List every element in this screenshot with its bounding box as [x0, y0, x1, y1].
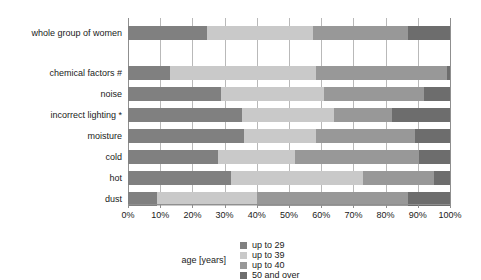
- bar-segment: [128, 150, 218, 164]
- bar-segment: [221, 87, 324, 101]
- bar-segment: [128, 87, 221, 101]
- legend-item[interactable]: up to 29: [240, 240, 286, 250]
- y-axis-category-labels: whole group of womenchemical factors #no…: [0, 18, 122, 204]
- legend-swatch-icon: [240, 262, 247, 269]
- gridline-100: [450, 18, 451, 204]
- bar-segment: [207, 26, 313, 40]
- category-label: noise: [0, 87, 122, 101]
- x-tick-label: 100%: [430, 209, 470, 221]
- bar-segment: [128, 26, 207, 40]
- bar-row: [128, 108, 450, 122]
- bar-row: [128, 150, 450, 164]
- category-label: whole group of women: [0, 26, 122, 40]
- legend-swatch-icon: [240, 252, 247, 259]
- bar-segment: [128, 108, 242, 122]
- bar-segment: [392, 108, 450, 122]
- bar-segment: [313, 26, 408, 40]
- bar-segment: [424, 87, 450, 101]
- legend-label: up to 39: [252, 250, 285, 260]
- bar-segment: [244, 129, 316, 143]
- legend-label: 50 and over: [252, 270, 300, 280]
- x-tick-mark: [321, 204, 322, 208]
- legend-label: up to 40: [252, 260, 285, 270]
- category-label: incorrect lighting *: [0, 108, 122, 122]
- bar-row: [128, 171, 450, 185]
- bar-segment: [231, 171, 363, 185]
- bar-segment: [128, 171, 231, 185]
- legend-swatch-icon: [240, 272, 247, 279]
- bar-row: [128, 87, 450, 101]
- bar-segment: [242, 108, 334, 122]
- x-tick-mark: [257, 204, 258, 208]
- legend-item[interactable]: up to 39: [240, 250, 286, 260]
- x-tick-mark: [225, 204, 226, 208]
- bar-segment: [316, 66, 446, 80]
- bar-segment: [447, 66, 450, 80]
- bar-segment: [295, 150, 419, 164]
- legend-title: age [years]: [181, 255, 226, 265]
- legend: age [years] up to 29up to 39up to 4050 a…: [0, 240, 481, 280]
- bar-rows: [128, 18, 450, 204]
- bar-segment: [128, 129, 244, 143]
- bar-segment: [170, 66, 317, 80]
- x-tick-mark: [450, 204, 451, 208]
- category-label: dust: [0, 192, 122, 206]
- bar-segment: [334, 108, 392, 122]
- bar-segment: [316, 129, 414, 143]
- x-tick-mark: [289, 204, 290, 208]
- bar-segment: [408, 26, 450, 40]
- legend-swatch-icon: [240, 242, 247, 249]
- legend-item[interactable]: up to 40: [240, 260, 286, 270]
- x-tick-mark: [418, 204, 419, 208]
- plot-area: [128, 18, 450, 204]
- category-label: chemical factors #: [0, 66, 122, 80]
- category-label: cold: [0, 150, 122, 164]
- bar-segment: [128, 66, 170, 80]
- legend-label: up to 29: [252, 240, 285, 250]
- bar-row: [128, 129, 450, 143]
- bar-segment: [324, 87, 424, 101]
- x-tick-mark: [386, 204, 387, 208]
- bar-row: [128, 66, 450, 80]
- category-label: hot: [0, 171, 122, 185]
- x-tick-mark: [192, 204, 193, 208]
- x-tick-mark: [128, 204, 129, 208]
- category-label: moisture: [0, 129, 122, 143]
- bar-segment: [434, 171, 450, 185]
- bar-segment: [218, 150, 295, 164]
- x-tick-mark: [160, 204, 161, 208]
- bar-segment: [419, 150, 450, 164]
- bar-segment: [363, 171, 434, 185]
- x-tick-mark: [353, 204, 354, 208]
- legend-items: up to 29up to 39up to 4050 and over: [240, 240, 300, 280]
- bar-segment: [415, 129, 450, 143]
- bar-row: [128, 26, 450, 40]
- legend-item[interactable]: 50 and over: [240, 270, 300, 280]
